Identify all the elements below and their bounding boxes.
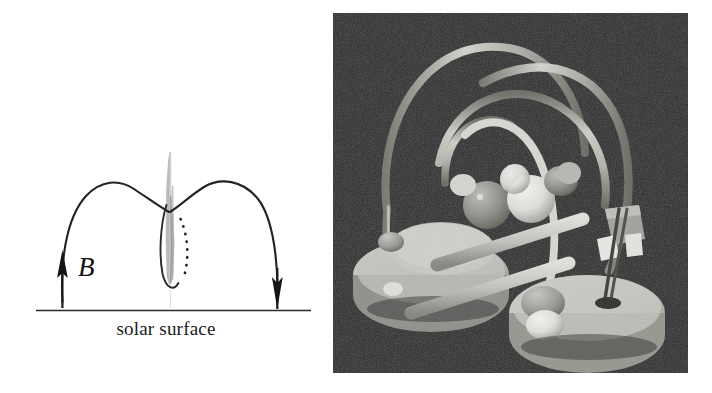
laboratory-model-photograph [333, 13, 688, 373]
dotted-separatrix [181, 219, 188, 276]
left-field-line-arch [62, 183, 169, 302]
photograph-svg [333, 13, 688, 373]
magnetic-field-label-B: B [78, 252, 95, 283]
magnetic-arcade-schematic: B solar surface [0, 0, 332, 393]
figure-root: B solar surface [0, 0, 712, 393]
photo-grain-overlay [333, 13, 688, 373]
solar-surface-label: solar surface [0, 318, 332, 340]
left-field-arrow-up [57, 250, 68, 308]
right-field-arrow-down [272, 268, 283, 309]
